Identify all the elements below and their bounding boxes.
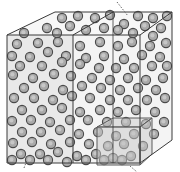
particle-highlight [152, 109, 156, 113]
particle-highlight [107, 77, 111, 81]
particle-highlight [30, 75, 34, 79]
particle-highlight [135, 85, 139, 89]
particle-highlight [115, 43, 119, 47]
particle-highlight [150, 33, 154, 37]
particle-highlight [129, 39, 133, 43]
particle-highlight [101, 53, 105, 57]
particle-highlight [21, 30, 25, 34]
particle-highlight [39, 63, 43, 67]
particle-highlight [144, 97, 148, 101]
particle-highlight [115, 109, 119, 113]
particle-highlight [85, 117, 89, 121]
particle-highlight [153, 87, 157, 91]
particle-highlight [11, 95, 15, 99]
particle-highlight [77, 109, 81, 113]
particle-highlight [87, 95, 91, 99]
particle-highlight [45, 157, 49, 161]
particle-highlight [86, 141, 90, 145]
particle-highlight [75, 13, 79, 17]
particle-highlight [115, 27, 119, 31]
particle-highlight [54, 30, 58, 34]
particle-highlight [28, 117, 32, 121]
particle-highlight [125, 97, 129, 101]
particle-highlight [89, 75, 93, 79]
particle-highlight [14, 41, 18, 45]
particle-highlight [117, 87, 121, 91]
diagram-canvas [0, 0, 180, 172]
sub-cube-front [97, 127, 140, 165]
particle-highlight [97, 39, 101, 43]
particle-highlight [131, 65, 135, 69]
particle-highlight [55, 39, 59, 43]
particle-highlight [130, 30, 134, 34]
particle-highlight [31, 95, 35, 99]
particle-highlight [27, 54, 31, 58]
particle-highlight [161, 119, 165, 123]
particle-highlight [77, 43, 81, 47]
particle-highlight [21, 85, 25, 89]
particle-highlight [60, 87, 64, 91]
particle-highlight [143, 77, 147, 81]
particle-highlight [107, 97, 111, 101]
particle-highlight [76, 131, 80, 135]
particle-highlight [38, 129, 42, 133]
particle-highlight [59, 105, 63, 109]
particle-highlight [39, 107, 43, 111]
particle-highlight [59, 15, 63, 19]
particle-highlight [162, 95, 166, 99]
particle-highlight [51, 71, 55, 75]
particle-highlight [83, 55, 87, 59]
particle-highlight [48, 141, 52, 145]
particle-highlight [135, 13, 139, 17]
particle-highlight [35, 40, 39, 44]
particle-highlight [10, 72, 14, 76]
particle-highlight [98, 85, 102, 89]
particle-highlight [50, 97, 54, 101]
particle-highlight [27, 157, 31, 161]
particle-highlight [19, 107, 23, 111]
particle-highlight [113, 65, 117, 69]
particle-highlight [121, 21, 125, 25]
particle-highlight [92, 15, 96, 19]
particle-highlight [149, 63, 153, 67]
particle-highlight [163, 40, 167, 44]
particle-highlight [160, 75, 164, 79]
particle-highlight [83, 157, 87, 161]
leader-line [130, 166, 137, 172]
particle-highlight [67, 139, 71, 143]
particle-highlight [150, 15, 154, 19]
sub-cube-right [140, 118, 152, 165]
particle-highlight [147, 43, 151, 47]
particle-highlight [29, 139, 33, 143]
particle-highlight [45, 49, 49, 53]
particle-highlight [142, 23, 146, 27]
particle-highlight [158, 25, 162, 29]
particle-highlight [79, 83, 83, 87]
particle-highlight [67, 117, 71, 121]
particle-highlight [63, 53, 67, 57]
particle-highlight [125, 75, 129, 79]
gas-particles-cube-diagram [0, 0, 180, 172]
particle-highlight [121, 56, 125, 60]
particle-highlight [97, 107, 101, 111]
particle-highlight [9, 157, 13, 161]
particle-highlight [9, 53, 13, 57]
particle-highlight [59, 59, 63, 63]
particle-highlight [67, 23, 71, 27]
particle-highlight [74, 153, 78, 157]
particle-highlight [164, 63, 168, 67]
particle-highlight [17, 63, 21, 67]
particle-highlight [101, 25, 105, 29]
particle-highlight [57, 127, 61, 131]
particle-highlight [37, 151, 41, 155]
particle-highlight [133, 107, 137, 111]
particle-highlight [19, 129, 23, 133]
particle-highlight [55, 149, 59, 153]
particle-highlight [157, 54, 161, 58]
particle-highlight [68, 73, 72, 77]
particle-highlight [9, 118, 13, 122]
particle-highlight [47, 119, 51, 123]
particle-highlight [44, 25, 48, 29]
particle-highlight [18, 151, 22, 155]
sub-cube [97, 118, 152, 165]
